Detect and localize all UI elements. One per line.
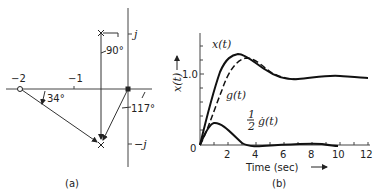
xtick: 12 xyxy=(360,149,373,160)
caption-b: (b) xyxy=(272,178,286,189)
label-gdot-den: 2 xyxy=(247,120,255,133)
x-axis-label: Time (sec) xyxy=(245,162,298,173)
ytick-1: 1.0 xyxy=(182,69,198,80)
imag-label-minus-j: −j xyxy=(134,138,147,151)
time-response-chart: 1.0 0 2 4 6 8 10 12 Time (sec) x(t) x(t)… xyxy=(171,33,373,189)
angle-117: 117° xyxy=(131,103,155,114)
xtick: 2 xyxy=(224,149,230,160)
label-x: x(t) xyxy=(212,38,231,51)
xtick: 8 xyxy=(308,149,314,160)
angle-90: 90° xyxy=(106,45,124,56)
pole-lower xyxy=(98,142,104,148)
label-g: g(t) xyxy=(226,89,246,102)
xtick: 4 xyxy=(252,149,258,160)
pole-zero-plot: −2 −1 j −j 90° 34° 117° (a) xyxy=(6,8,155,189)
tick-minus-2: −2 xyxy=(11,73,26,84)
angle-34: 34° xyxy=(47,93,65,104)
origin-label: 0 xyxy=(190,143,196,154)
pole-origin xyxy=(126,87,131,92)
imag-label-j: j xyxy=(131,28,138,41)
xtick: 6 xyxy=(280,149,286,160)
figure: −2 −1 j −j 90° 34° 117° (a) xyxy=(0,0,373,195)
caption-a: (a) xyxy=(65,178,79,189)
xtick: 10 xyxy=(332,149,345,160)
tick-minus-1: −1 xyxy=(68,73,83,84)
y-axis-label: x(t) xyxy=(171,73,184,92)
zero-marker xyxy=(18,87,23,92)
label-gdot: ġ(t) xyxy=(258,115,278,128)
